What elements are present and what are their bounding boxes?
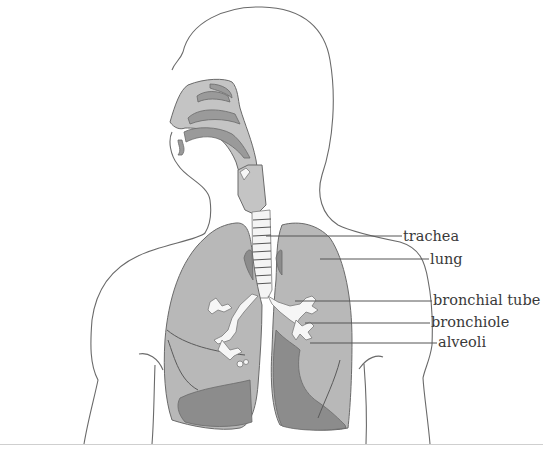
label-alveoli: alveoli [438, 335, 486, 350]
label-bronchial-tube: bronchial tube [433, 293, 540, 308]
label-trachea: trachea [403, 229, 459, 244]
respiratory-system-illustration [0, 0, 543, 460]
label-bronchiole: bronchiole [431, 315, 509, 330]
larynx [238, 165, 266, 215]
right-lung [164, 223, 262, 429]
label-lung: lung [430, 252, 463, 267]
bottom-divider [0, 444, 543, 445]
